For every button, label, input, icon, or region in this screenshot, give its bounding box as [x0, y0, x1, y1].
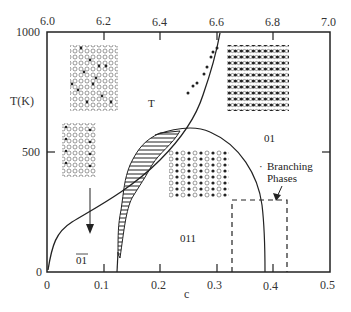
region-label-01: 01	[264, 132, 275, 144]
y-tick-label: 1000	[16, 25, 40, 39]
top-tick-label: 6.8	[265, 15, 280, 29]
x-tick-label: 0.2	[151, 278, 166, 292]
x-axis-label: c	[184, 287, 189, 301]
phase-diagram: 0 0.1 0.2 0.3 0.4 0.5 6.0 6.2 6.4 6.6 6.…	[0, 0, 351, 312]
branching-label-1: Branching	[267, 160, 313, 172]
o1-o11-dome	[155, 128, 265, 272]
experimental-points	[187, 47, 219, 95]
branching-dot: ·	[259, 160, 263, 172]
x-ticks	[104, 264, 273, 272]
lattice-inset-011	[169, 150, 229, 198]
region-label-011: 011	[180, 232, 196, 244]
top-tick-label: 6.2	[96, 14, 111, 28]
branching-label-2: Phases	[267, 172, 297, 184]
y-tick-label: 500	[22, 145, 40, 159]
top-tick-label: 6.6	[209, 15, 224, 29]
branching-box	[232, 200, 287, 272]
x-tick-label: 0	[44, 278, 50, 292]
x-tick-label: 0.4	[263, 279, 278, 293]
dome-left-foot	[117, 252, 118, 272]
region-label-01bar: 01	[76, 254, 87, 266]
top-tick-label: 7.0	[321, 15, 336, 29]
top-ticks	[104, 32, 273, 40]
arrow-down-icon	[86, 224, 94, 234]
x-tick-label: 0.1	[94, 278, 109, 292]
y-axis-label: T(K)	[10, 94, 34, 108]
x-tick-label: 0.3	[207, 278, 222, 292]
top-tick-label: 6.0	[40, 14, 55, 28]
x-tick-label: 0.5	[320, 278, 335, 292]
top-tick-label: 6.4	[152, 15, 167, 29]
y-tick-label: 0	[36, 265, 42, 279]
lattice-inset-01bar	[62, 123, 96, 177]
region-label-T: T	[148, 97, 155, 109]
lattice-inset-01	[227, 45, 289, 111]
